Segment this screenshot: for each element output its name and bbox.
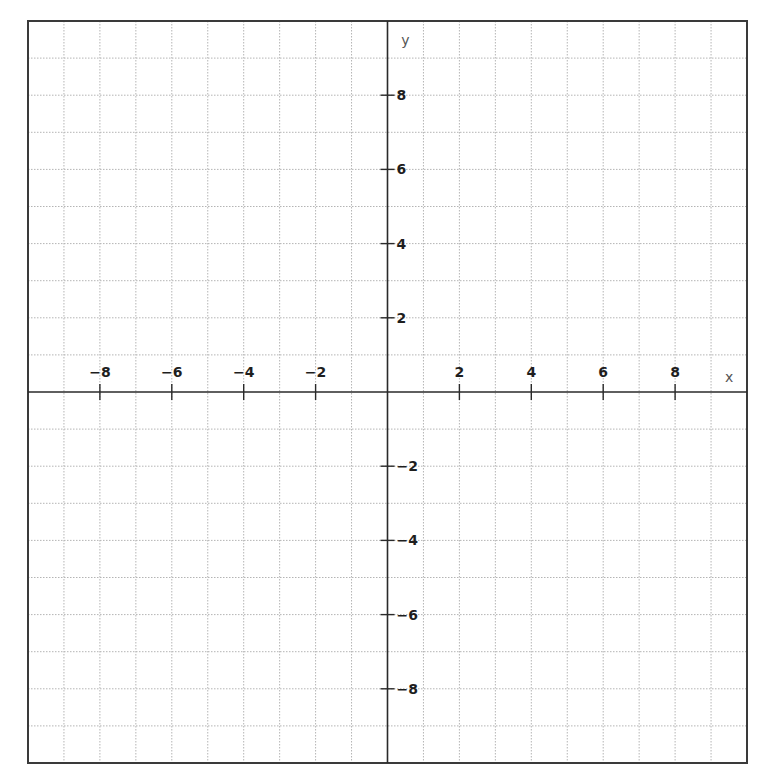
x-tick-label: −2 xyxy=(305,364,326,380)
x-tick-label: 6 xyxy=(598,364,608,380)
x-tick-label: 4 xyxy=(526,364,536,380)
y-tick-label: 8 xyxy=(397,87,407,103)
y-tick-label: −6 xyxy=(397,607,418,623)
y-tick-label: −8 xyxy=(397,681,418,697)
y-tick-label: 4 xyxy=(397,236,407,252)
y-tick-label: −4 xyxy=(397,532,419,548)
x-tick-label: 8 xyxy=(670,364,680,380)
coordinate-plane: −8−6−4−22468 8642−2−4−6−8 x y xyxy=(0,0,761,773)
x-tick-label: −6 xyxy=(161,364,182,380)
x-tick-label: −4 xyxy=(233,364,255,380)
y-tick-label: −2 xyxy=(397,458,418,474)
x-axis-label: x xyxy=(725,369,733,385)
y-tick-label: 6 xyxy=(397,161,407,177)
y-axis-label: y xyxy=(401,32,409,48)
x-tick-label: 2 xyxy=(455,364,465,380)
x-tick-label: −8 xyxy=(89,364,110,380)
y-tick-label: 2 xyxy=(397,310,407,326)
x-ticks: −8−6−4−22468 xyxy=(89,364,680,400)
